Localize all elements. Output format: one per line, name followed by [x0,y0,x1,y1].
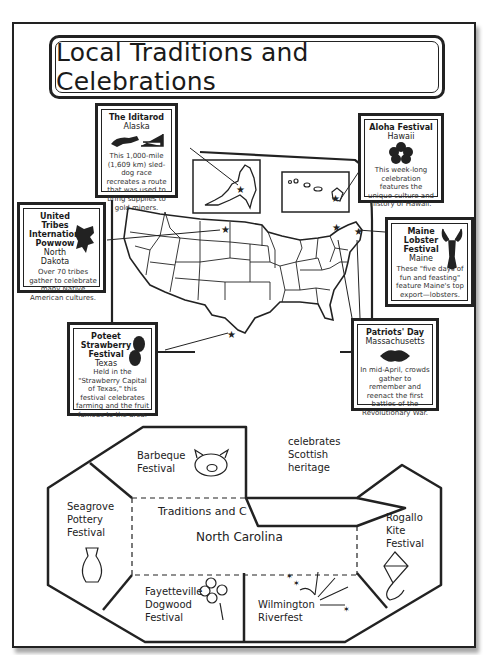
flap-fayetteville: Fayetteville Dogwood Festival [145,585,205,624]
svg-text:✶: ✶ [286,572,293,581]
kite-icon [384,552,408,600]
foldable-center-title: Traditions and C [158,505,247,518]
foldable-state-name: North Carolina [196,531,283,544]
flap-scottish: celebrates Scottish heritage [288,435,343,474]
foldable-diagram: ✶✶✶ [0,0,483,655]
flap-wilmington: Wilmington Riverfest [258,598,318,624]
vase-icon [82,548,101,582]
svg-text:✶: ✶ [293,579,300,588]
flap-barbeque: Barbeque Festival [137,449,192,475]
flap-rogallo: Rogallo Kite Festival [386,511,428,550]
svg-text:✶: ✶ [343,605,350,614]
flap-seagrove: Seagrove Pottery Festival [67,500,122,539]
pig-icon [195,450,228,476]
